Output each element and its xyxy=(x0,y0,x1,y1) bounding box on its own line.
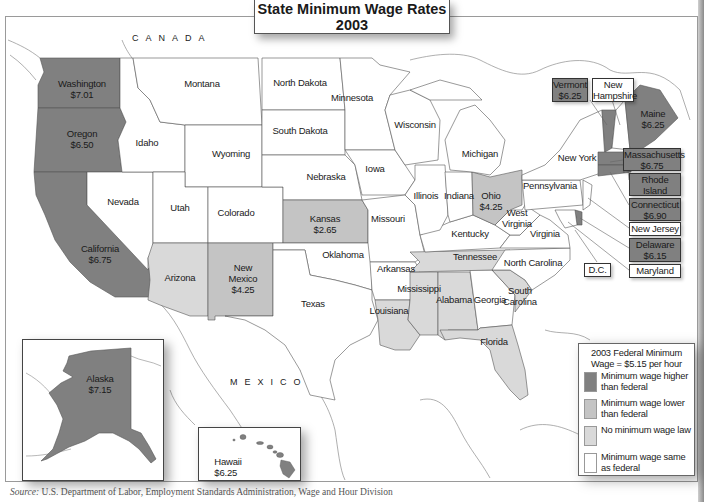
alaska-map xyxy=(23,340,163,480)
title-line-1: State Minimum Wage Rates xyxy=(255,1,449,17)
label-idaho: Idaho xyxy=(136,137,159,148)
label-illinois: Illinois xyxy=(414,190,439,201)
state-mississippi[interactable] xyxy=(408,272,438,335)
legend-swatch-higher xyxy=(584,372,597,392)
legend-swatch-lower xyxy=(584,399,597,419)
country-label-canada: CANADA xyxy=(132,33,212,43)
hawaii-islands[interactable] xyxy=(233,435,295,479)
callout-new-jersey: New Jersey xyxy=(629,222,681,236)
label-wisconsin: Wisconsin xyxy=(394,119,436,130)
callout-rhode-island: Rhode Island$6.15 xyxy=(629,173,681,196)
legend-heading: 2003 Federal Minimum Wage = $5.15 per ho… xyxy=(579,348,694,369)
label-nevada: Nevada xyxy=(107,196,139,207)
label-north-carolina: North Carolina xyxy=(504,257,562,268)
label-wyoming: Wyoming xyxy=(212,148,250,159)
title-year: 2003 xyxy=(255,17,449,33)
alaska-inset xyxy=(22,339,164,481)
callout-maryland: Maryland xyxy=(629,264,681,278)
label-nebraska: Nebraska xyxy=(306,171,345,182)
label-oregon: Oregon$6.50 xyxy=(67,128,98,150)
label-alaska: Alaska$7.15 xyxy=(86,373,113,395)
label-new-mexico: NewMexico$4.25 xyxy=(229,262,258,295)
label-missouri: Missouri xyxy=(371,213,405,224)
state-maryland[interactable] xyxy=(555,210,577,228)
label-louisiana: Louisiana xyxy=(370,305,409,316)
legend-item-higher: Minimum wage higher than federal xyxy=(579,371,694,396)
callout-new-hampshire: NewHampshire xyxy=(592,78,634,102)
label-texas: Texas xyxy=(301,298,325,309)
legend-item-lower: Minimum wage lower than federal xyxy=(579,398,694,423)
label-indiana: Indiana xyxy=(444,190,474,201)
map-title: State Minimum Wage Rates 2003 xyxy=(254,0,450,34)
source-note: Source: U.S. Department of Labor, Employ… xyxy=(10,487,393,497)
legend: 2003 Federal Minimum Wage = $5.15 per ho… xyxy=(578,343,695,476)
state-new-york[interactable] xyxy=(522,110,610,180)
state-new-jersey[interactable] xyxy=(583,180,592,210)
label-ohio: Ohio$4.25 xyxy=(480,190,503,212)
label-georgia: Georgia xyxy=(474,294,506,305)
state-connecticut[interactable] xyxy=(598,165,624,176)
label-arizona: Arizona xyxy=(165,272,196,283)
callout-massachusetts: Massachusetts$6.75 xyxy=(623,148,681,171)
label-kansas: Kansas$2.65 xyxy=(310,213,341,235)
label-michigan: Michigan xyxy=(462,148,498,159)
callout-dc: D.C. xyxy=(584,263,611,277)
state-alaska[interactable] xyxy=(41,348,156,463)
label-california: California$6.75 xyxy=(81,243,119,265)
label-maine: Maine$6.25 xyxy=(641,108,666,130)
label-oklahoma: Oklahoma xyxy=(322,249,364,260)
label-minnesota: Minnesota xyxy=(331,92,373,103)
label-tennessee: Tennessee xyxy=(453,251,497,262)
label-new-york: New York xyxy=(558,152,597,163)
label-kentucky: Kentucky xyxy=(451,228,488,239)
callout-delaware: Delaware$6.15 xyxy=(629,238,681,262)
label-hawaii: Hawaii$6.25 xyxy=(214,456,241,478)
label-iowa: Iowa xyxy=(365,163,384,174)
callout-connecticut: Connecticut$6.90 xyxy=(629,198,681,221)
label-montana: Montana xyxy=(184,78,220,89)
legend-item-same: Minimum wage same as federal xyxy=(579,452,694,477)
label-washington: Washington$7.01 xyxy=(58,78,106,100)
state-michigan[interactable] xyxy=(445,105,505,175)
label-florida: Florida xyxy=(480,336,508,347)
label-north-dakota: North Dakota xyxy=(273,77,327,88)
label-south-dakota: South Dakota xyxy=(272,125,327,136)
legend-swatch-none xyxy=(584,426,597,446)
label-south-carolina: SouthCarolina xyxy=(503,285,537,307)
label-alabama: Alabama xyxy=(436,294,472,305)
label-virginia: Virginia xyxy=(530,228,560,239)
label-pennsylvania: Pennsylvania xyxy=(523,180,577,191)
legend-swatch-same xyxy=(584,453,597,473)
label-mississippi: Mississippi xyxy=(397,283,441,294)
label-colorado: Colorado xyxy=(218,207,255,218)
label-arkansas: Arkansas xyxy=(377,263,415,274)
label-utah: Utah xyxy=(170,202,189,213)
country-label-mexico: MEXICO xyxy=(230,377,308,387)
callout-vermont: Vermont$6.25 xyxy=(552,78,588,102)
legend-item-none: No minimum wage law xyxy=(579,425,694,450)
label-west-virginia: WestVirginia xyxy=(502,207,532,229)
